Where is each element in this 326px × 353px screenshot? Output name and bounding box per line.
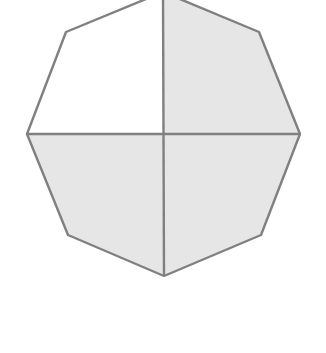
vertical-divider — [163, 0, 164, 276]
quadrant-bottom-left — [27, 134, 164, 276]
quadrant-bottom-right — [163, 134, 300, 276]
fraction-diagram — [0, 0, 326, 353]
